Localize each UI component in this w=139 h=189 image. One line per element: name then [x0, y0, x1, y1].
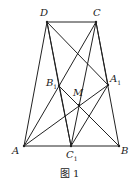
label-c1-text: C	[66, 149, 74, 160]
label-c1: C1	[66, 150, 77, 162]
label-m-text: M	[73, 87, 83, 98]
label-d: D	[40, 8, 48, 18]
label-a: A	[12, 146, 19, 156]
label-c1-sub: 1	[74, 155, 78, 162]
label-a1-sub: 1	[117, 79, 121, 86]
label-a-text: A	[12, 145, 19, 156]
label-b1-sub: 1	[53, 83, 57, 90]
label-b: B	[121, 146, 128, 156]
label-m: M	[73, 88, 83, 98]
label-a1: A1	[110, 74, 121, 86]
figure-caption: 图 1	[0, 165, 139, 180]
label-b-text: B	[121, 145, 128, 156]
label-c: C	[93, 8, 101, 18]
label-b1: B1	[46, 78, 57, 90]
label-c-text: C	[93, 7, 101, 18]
label-d-text: D	[40, 7, 48, 18]
